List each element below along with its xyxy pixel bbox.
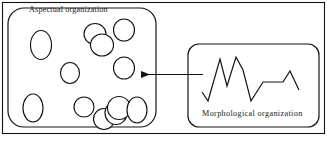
unit-ellipse xyxy=(114,57,135,79)
figure-container: Aspectual organization Morphological org… xyxy=(0,0,327,144)
unit-ellipse xyxy=(31,31,52,60)
waveform-polyline xyxy=(202,57,299,101)
unit-ellipse xyxy=(127,97,147,123)
morphological-organization-label: Morphological organization xyxy=(202,110,303,118)
unit-ellipse xyxy=(114,19,135,41)
unit-ellipse xyxy=(74,97,94,117)
aspectual-unit-ellipses xyxy=(23,19,147,130)
aspectual-organization-label: Aspectual organization xyxy=(29,6,108,14)
unit-ellipse xyxy=(61,63,80,84)
diagram-canvas xyxy=(0,0,327,144)
unit-ellipse xyxy=(23,94,43,122)
unit-ellipse xyxy=(91,34,114,56)
